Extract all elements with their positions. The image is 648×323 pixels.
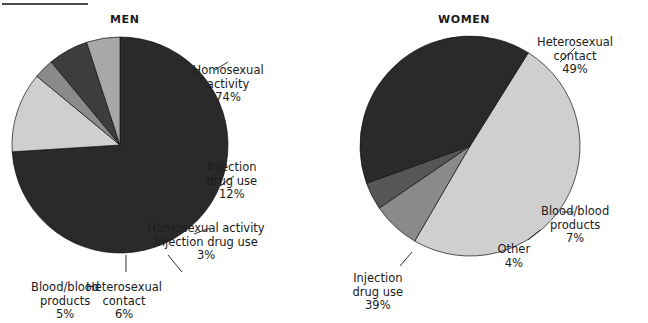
callout-women-heterosexual-contact: Heterosexualcontact49% bbox=[537, 36, 613, 77]
callout-line: activity bbox=[193, 78, 264, 92]
callout-percent: 3% bbox=[148, 249, 265, 263]
callout-line: Injection drug use bbox=[148, 236, 265, 250]
callout-women-blood-products: Blood/bloodproducts7% bbox=[541, 205, 609, 246]
callout-line: Blood/blood bbox=[31, 281, 99, 295]
callout-women-injection-drug-use: Injectiondrug use39% bbox=[353, 272, 404, 313]
leader-line-women-injection-drug-use bbox=[400, 252, 412, 266]
callout-percent: 74% bbox=[193, 91, 264, 105]
callout-line: products bbox=[31, 295, 99, 309]
callout-men-blood-products: Blood/bloodproducts5% bbox=[31, 281, 99, 322]
callout-line: Other bbox=[498, 243, 531, 257]
callout-line: products bbox=[541, 219, 609, 233]
callout-percent: 4% bbox=[498, 257, 531, 271]
callout-men-homosexual-and-injection: Homosexual activityInjection drug use3% bbox=[148, 222, 265, 263]
callout-line: Heterosexual bbox=[537, 36, 613, 50]
callout-line: Injection bbox=[353, 272, 404, 286]
callout-line: Homosexual bbox=[193, 64, 264, 78]
pie-chart-figure: MEN WOMEN Homosexualactivity74%Injection… bbox=[0, 0, 648, 323]
callout-line: drug use bbox=[207, 175, 258, 189]
callout-women-other: Other4% bbox=[498, 243, 531, 270]
callout-percent: 12% bbox=[207, 188, 258, 202]
callout-men-homosexual-activity: Homosexualactivity74% bbox=[193, 64, 264, 105]
callout-line: drug use bbox=[353, 286, 404, 300]
callout-line: Homosexual activity bbox=[148, 222, 265, 236]
callout-line: Blood/blood bbox=[541, 205, 609, 219]
callout-percent: 39% bbox=[353, 299, 404, 313]
callout-percent: 5% bbox=[31, 308, 99, 322]
callout-men-injection-drug-use: Injectiondrug use12% bbox=[207, 161, 258, 202]
callout-line: Injection bbox=[207, 161, 258, 175]
callout-percent: 7% bbox=[541, 232, 609, 246]
callout-percent: 49% bbox=[537, 63, 613, 77]
callout-line: contact bbox=[537, 50, 613, 64]
